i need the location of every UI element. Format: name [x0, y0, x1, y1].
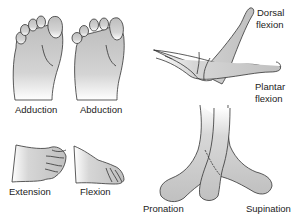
- label-flexion: Flexion: [80, 186, 111, 197]
- adduction-foot: [13, 16, 63, 100]
- label-dorsal-flexion-line1: Dorsal: [257, 7, 284, 18]
- label-plantar-flexion-line2: flexion: [255, 93, 282, 104]
- flexion-foot: [74, 146, 124, 184]
- label-extension: Extension: [9, 186, 51, 197]
- pronation-supination-feet: [160, 105, 272, 202]
- abduction-foot: [72, 18, 124, 100]
- label-abduction: Abduction: [80, 104, 122, 115]
- label-plantar-flexion-line1: Plantar: [255, 81, 285, 92]
- label-pronation: Pronation: [143, 203, 184, 214]
- extension-foot: [12, 145, 66, 182]
- label-adduction: Adduction: [15, 104, 57, 115]
- label-dorsal-flexion-line2: flexion: [256, 19, 283, 30]
- label-supination: Supination: [246, 203, 291, 214]
